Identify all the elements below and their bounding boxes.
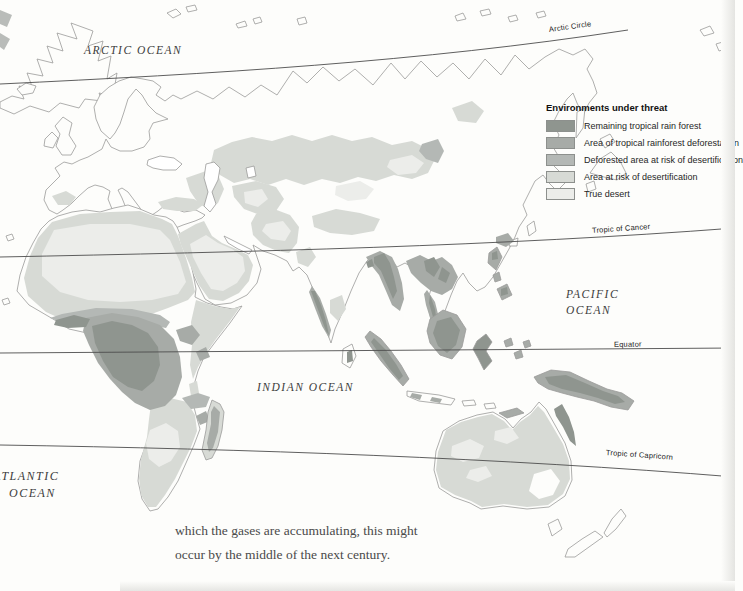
caption-line: which the gases are accumulating, this m… [175,519,495,543]
cape-verde [2,298,10,305]
legend-item: Remaining tropical rain forest [546,120,743,132]
arctic-island [236,21,247,28]
caption-text: which the gases are accumulating, this m… [175,519,495,567]
aral-sea [246,166,256,178]
arctic-island [297,17,307,25]
moluccas [523,340,531,348]
tasmania [548,519,562,536]
legend-item-label: True desert [584,189,630,199]
new-zealand-north [604,509,626,537]
arctic-island [480,9,491,16]
timor [499,408,524,418]
british-isles [55,117,76,155]
page-corner-mark [0,10,12,27]
atlantic-ocean-label-line1: ATLANTIC [0,469,59,484]
legend-item: Area at risk of desertification [546,171,743,183]
arctic-island [186,5,197,12]
iceland [17,83,36,95]
legend-item-label: Area of tropical rainforest deforestatio… [584,138,739,148]
arctic-island [455,13,466,21]
lesser-sunda [462,400,476,406]
sulawesi [473,334,492,370]
equator-label: Equator [614,340,642,349]
page-edge-shadow-right [721,0,735,591]
pacific-ocean-label-line2: OCEAN [566,304,611,316]
lesser-sunda [484,403,496,409]
canary-islands [6,234,14,241]
sumatra-forest [371,338,403,380]
indian-ocean-label: INDIAN OCEAN [257,381,354,393]
legend-swatch [546,171,575,183]
arctic-island [508,15,518,22]
legend-swatch [546,188,575,200]
pacific-ocean-label-line1: PACIFIC [566,288,619,300]
caption-line: occur by the middle of the next century. [175,543,495,567]
legend-item: Area of tropical rainforest deforestatio… [546,137,743,149]
page-corner-mark [0,33,10,50]
sri-lanka-forest [347,350,353,363]
page-edge-shadow-bottom [120,581,735,591]
arctic-island [700,26,714,36]
arctic-island [253,17,262,24]
legend-swatch [546,137,575,149]
legend-item: True desert [546,188,743,200]
legend-title: Environments under threat [546,102,743,113]
legend-item-label: Remaining tropical rain forest [584,121,701,131]
legend-rows: Remaining tropical rain forest Area of t… [546,120,743,200]
legend-item: Deforested area at risk of desertificati… [546,154,743,166]
new-zealand-south [565,531,603,557]
moluccas [504,338,513,347]
arctic-ocean-label: ARCTIC OCEAN [84,44,182,56]
atlantic-ocean-label-line2: OCEAN [9,486,56,501]
legend-item-label: Deforested area at risk of desertificati… [584,155,743,165]
legend-item-label: Area at risk of desertification [584,172,698,182]
legend: Environments under threat Remaining trop… [546,102,743,205]
arctic-island [167,9,181,18]
legend-swatch [546,120,575,132]
arctic-island [536,11,546,18]
legend-swatch [546,154,575,166]
taiwan [527,221,536,236]
moluccas [514,350,523,359]
